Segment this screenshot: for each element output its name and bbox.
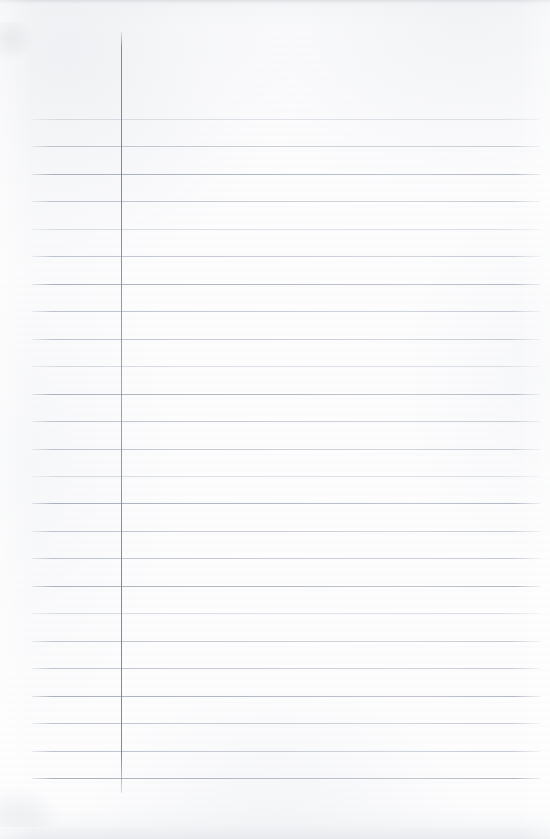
writing-area[interactable]	[122, 119, 540, 793]
scanned-notebook-page	[0, 0, 550, 839]
